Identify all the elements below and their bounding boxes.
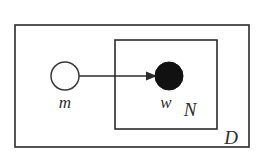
node-m-latent [51,62,79,90]
node-label-w: w [160,93,172,112]
plate-diagram-canvas: m w N D [0,0,265,151]
node-label-m: m [59,93,71,112]
node-w-observed [155,62,183,90]
plate-label-n: N [183,99,198,120]
plate-label-d: D [223,127,238,148]
plate-diagram-svg: m w N D [0,0,265,151]
